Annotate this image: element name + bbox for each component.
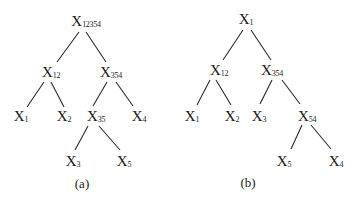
node-subscript: 12 bbox=[53, 71, 60, 80]
node-subscript: 35 bbox=[98, 115, 105, 124]
node-subscript: 12354 bbox=[82, 20, 101, 29]
edge-b-n54-x5 bbox=[291, 125, 302, 149]
tree-a-node-x1: X1 bbox=[14, 109, 29, 124]
tree-a-node-x354: X354 bbox=[100, 65, 122, 80]
tree-b-node-x12: X12 bbox=[210, 63, 228, 78]
node-label: X bbox=[66, 153, 77, 169]
tree-a-node-x2: X2 bbox=[57, 109, 72, 124]
edge-b-n354-x3 bbox=[260, 80, 272, 104]
node-subscript: 354 bbox=[111, 71, 122, 80]
edge-a-root-n354 bbox=[86, 32, 106, 62]
tree-a-caption: (a) bbox=[75, 176, 89, 192]
node-subscript: 354 bbox=[272, 69, 283, 78]
node-label: X bbox=[225, 108, 236, 124]
node-label: X bbox=[57, 108, 68, 124]
edge-b-root-n354 bbox=[251, 30, 271, 60]
node-label: X bbox=[261, 62, 272, 78]
node-label: X bbox=[117, 153, 128, 169]
node-subscript: 3 bbox=[77, 160, 81, 169]
tree-b-node-x354: X354 bbox=[261, 63, 283, 78]
edge-b-n354-n54 bbox=[282, 80, 300, 104]
tree-b-node-x1: X1 bbox=[185, 109, 200, 124]
node-subscript: 1 bbox=[250, 18, 254, 27]
tree-a-node-x35: X35 bbox=[87, 109, 105, 124]
edge-a-n35-x3 bbox=[75, 126, 88, 150]
tree-a-node-x12: X12 bbox=[42, 65, 60, 80]
node-subscript: 3 bbox=[263, 115, 267, 124]
tree-b-node-root: X1 bbox=[239, 12, 254, 27]
node-label: X bbox=[14, 108, 25, 124]
node-label: X bbox=[277, 153, 288, 169]
edge-a-root-n12 bbox=[57, 32, 79, 62]
node-label: X bbox=[42, 64, 53, 80]
node-subscript: 2 bbox=[236, 115, 240, 124]
edge-b-n12-x1 bbox=[197, 80, 210, 105]
node-subscript: 4 bbox=[340, 160, 344, 169]
node-subscript: 4 bbox=[143, 115, 147, 124]
node-label: X bbox=[239, 11, 250, 27]
node-subscript: 54 bbox=[309, 115, 316, 124]
node-subscript: 2 bbox=[68, 115, 72, 124]
node-subscript: 1 bbox=[25, 115, 29, 124]
node-label: X bbox=[252, 108, 263, 124]
tree-edges bbox=[0, 0, 354, 204]
tree-a-node-root: X12354 bbox=[71, 14, 100, 29]
edge-a-n354-n35 bbox=[93, 82, 107, 106]
node-label: X bbox=[210, 62, 221, 78]
node-label: X bbox=[87, 108, 98, 124]
tree-a-node-x5: X5 bbox=[117, 154, 132, 169]
edge-a-n354-x4 bbox=[116, 82, 133, 106]
node-subscript: 5 bbox=[288, 160, 292, 169]
node-subscript: 1 bbox=[196, 115, 200, 124]
node-label: X bbox=[132, 108, 143, 124]
tree-b-node-x4: X4 bbox=[329, 154, 344, 169]
node-label: X bbox=[100, 64, 111, 80]
edge-a-n35-x5 bbox=[99, 126, 120, 150]
node-subscript: 5 bbox=[128, 160, 132, 169]
edge-b-n54-x4 bbox=[311, 125, 331, 149]
tree-b-node-x2: X2 bbox=[225, 109, 240, 124]
tree-b-node-x54: X54 bbox=[298, 109, 316, 124]
node-label: X bbox=[298, 108, 309, 124]
node-label: X bbox=[71, 13, 82, 29]
node-label: X bbox=[185, 108, 196, 124]
tree-b-caption: (b) bbox=[240, 175, 255, 191]
edge-a-n12-x2 bbox=[51, 82, 64, 107]
edge-b-root-n12 bbox=[223, 30, 243, 60]
node-label: X bbox=[329, 153, 340, 169]
edge-a-n12-x1 bbox=[27, 82, 44, 107]
edge-b-n12-x2 bbox=[216, 80, 231, 105]
node-subscript: 12 bbox=[221, 69, 228, 78]
tree-a-node-x3: X3 bbox=[66, 154, 81, 169]
tree-b-node-x5: X5 bbox=[277, 154, 292, 169]
tree-a-node-x4: X4 bbox=[132, 109, 147, 124]
tree-b-node-x3: X3 bbox=[252, 109, 267, 124]
